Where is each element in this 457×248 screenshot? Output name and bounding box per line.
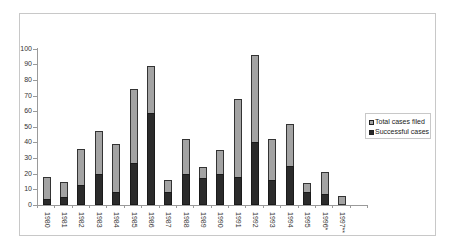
x-tick-label: 1994 [286,212,294,228]
x-tick-label: 1981 [60,212,68,228]
bar-successful-cases [303,192,311,205]
y-tick-label: 10 [14,185,32,193]
bar-successful-cases [130,163,138,205]
legend-item-total: Total cases filed [369,117,425,126]
legend: Total cases filed Successful cases [365,113,431,139]
x-tick-label: 1980 [43,212,51,228]
bar-successful-cases [182,174,190,205]
y-tick-label: 40 [14,138,32,146]
legend-swatch-total [369,120,374,125]
bar-successful-cases [60,197,68,205]
bar-successful-cases [95,174,103,205]
x-tick-label: 1991 [234,212,242,228]
y-tick-label: 60 [14,107,32,115]
bar-successful-cases [286,166,294,205]
bar-successful-cases [321,194,329,205]
bar-successful-cases [234,177,242,205]
y-axis [37,48,38,206]
bar-successful-cases [164,192,172,205]
x-tick-label: 1990 [216,212,224,228]
legend-label-successful: Successful cases [375,128,429,135]
x-tick-label: 1996* [321,212,329,230]
bar-successful-cases [268,180,276,205]
bar-successful-cases [216,174,224,205]
x-tick-label: 1983 [95,212,103,228]
x-tick-label: 1988 [182,212,190,228]
legend-item-successful: Successful cases [369,127,429,136]
x-tick-label: 1986 [147,212,155,228]
x-tick-label: 1995 [303,212,311,228]
bar-successful-cases [147,113,155,205]
x-tick-label: 1985 [130,212,138,228]
x-tick-label: 1993 [268,212,276,228]
legend-label-total: Total cases filed [375,118,425,125]
legend-swatch-successful [369,130,374,135]
bar-successful-cases [251,142,259,205]
x-axis [37,205,367,206]
x-tick [367,205,368,208]
y-tick-label: 90 [14,60,32,68]
y-tick-label: 80 [14,76,32,84]
y-tick-label: 50 [14,123,32,131]
bar-successful-cases [199,178,207,205]
x-tick-label: 1997** [338,212,346,233]
x-tick-label: 1989 [199,212,207,228]
x-tick-label: 1984 [112,212,120,228]
y-tick-label: 100 [14,45,32,53]
x-tick-label: 1987 [164,212,172,228]
y-tick-label: 0 [14,201,32,209]
x-tick-label: 1982 [77,212,85,228]
y-tick-label: 20 [14,170,32,178]
y-tick-label: 70 [14,92,32,100]
y-tick-label: 30 [14,154,32,162]
bar-successful-cases [112,192,120,205]
bar-successful-cases [77,185,85,205]
bar-total-cases [338,196,346,205]
x-tick-label: 1992 [251,212,259,228]
